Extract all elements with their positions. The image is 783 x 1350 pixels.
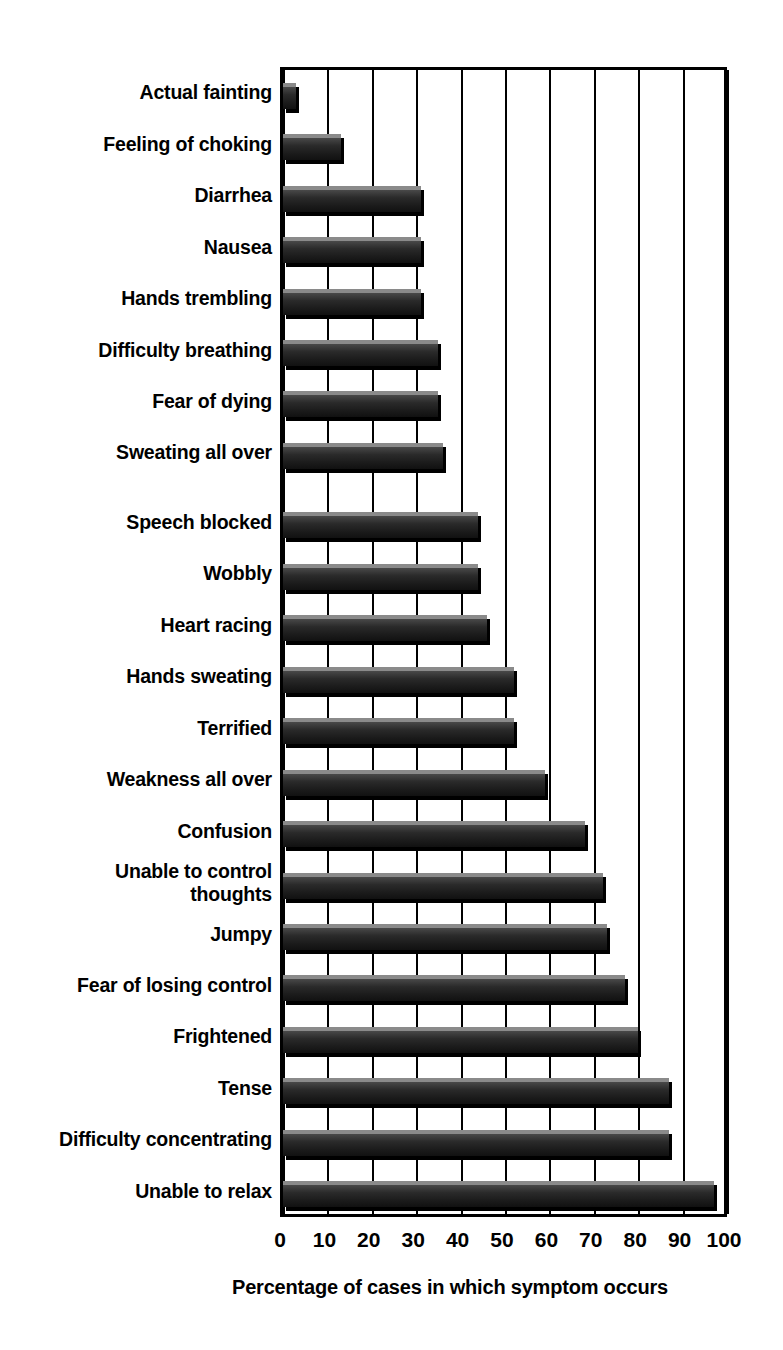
- bar-difficulty-concentrating: [283, 1130, 669, 1156]
- x-tick-label-10: 10: [313, 1228, 336, 1252]
- x-axis-title: Percentage of cases in which symptom occ…: [130, 1276, 770, 1299]
- bar-row: [283, 289, 724, 315]
- bar-row: [283, 770, 724, 796]
- bar-row: [283, 718, 724, 744]
- bar-row: [283, 975, 724, 1001]
- gridline-100: [727, 70, 729, 1214]
- bar-feeling-of-choking: [283, 134, 341, 160]
- bar-heart-racing: [283, 615, 487, 641]
- x-tick-label-50: 50: [490, 1228, 513, 1252]
- category-label-jumpy: Jumpy: [40, 923, 272, 946]
- x-tick-label-40: 40: [446, 1228, 469, 1252]
- bar-row: [283, 1027, 724, 1053]
- category-label-heart-racing: Heart racing: [40, 614, 272, 637]
- bar-speech-blocked: [283, 512, 478, 538]
- category-label-difficulty-concentrating: Difficulty concentrating: [40, 1128, 272, 1151]
- bar-row: [283, 1181, 724, 1207]
- bar-confusion: [283, 821, 585, 847]
- bar-row: [283, 615, 724, 641]
- bar-row: [283, 83, 724, 109]
- x-tick-label-60: 60: [535, 1228, 558, 1252]
- bar-hands-sweating: [283, 667, 514, 693]
- bar-tense: [283, 1078, 669, 1104]
- bar-highlight: [283, 667, 514, 671]
- category-label-actual-fainting: Actual fainting: [40, 81, 272, 104]
- bar-highlight: [283, 821, 585, 825]
- category-label-weakness-all-over: Weakness all over: [40, 768, 272, 791]
- x-tick-label-0: 0: [274, 1228, 286, 1252]
- bar-difficulty-breathing: [283, 340, 438, 366]
- x-axis-tick-labels: 0102030405060708090100: [280, 1228, 727, 1258]
- category-label-fear-of-losing-control: Fear of losing control: [40, 974, 272, 997]
- bar-row: [283, 1130, 724, 1156]
- bar-jumpy: [283, 924, 607, 950]
- category-label-diarrhea: Diarrhea: [40, 184, 272, 207]
- category-label-speech-blocked: Speech blocked: [40, 511, 272, 534]
- bar-highlight: [283, 289, 421, 293]
- bar-row: [283, 821, 724, 847]
- bar-highlight: [283, 615, 487, 619]
- category-label-wobbly: Wobbly: [40, 562, 272, 585]
- bar-highlight: [283, 1078, 669, 1082]
- x-tick-label-70: 70: [579, 1228, 602, 1252]
- category-label-tense: Tense: [40, 1077, 272, 1100]
- bar-row: [283, 873, 724, 899]
- category-label-unable-to-control-thoughts: Unable to control thoughts: [40, 860, 272, 906]
- bar-row: [283, 1078, 724, 1104]
- bar-highlight: [283, 186, 421, 190]
- bar-sweating-all-over: [283, 443, 443, 469]
- bars-layer: [283, 70, 724, 1214]
- bar-actual-fainting: [283, 83, 296, 109]
- bar-row: [283, 443, 724, 469]
- bar-highlight: [283, 340, 438, 344]
- category-label-confusion: Confusion: [40, 820, 272, 843]
- bar-highlight: [283, 924, 607, 928]
- category-label-list: Actual faintingFeeling of chokingDiarrhe…: [40, 67, 272, 1217]
- bar-highlight: [283, 512, 478, 516]
- bar-highlight: [283, 237, 421, 241]
- plot-area: [280, 67, 727, 1217]
- bar-highlight: [283, 718, 514, 722]
- bar-highlight: [283, 1130, 669, 1134]
- x-tick-label-100: 100: [706, 1228, 741, 1252]
- category-label-terrified: Terrified: [40, 717, 272, 740]
- bar-row: [283, 186, 724, 212]
- bar-highlight: [283, 443, 443, 447]
- bar-highlight: [283, 134, 341, 138]
- bar-row: [283, 924, 724, 950]
- bar-row: [283, 134, 724, 160]
- bar-highlight: [283, 1181, 714, 1185]
- bar-nausea: [283, 237, 421, 263]
- bar-unable-to-relax: [283, 1181, 714, 1207]
- category-label-frightened: Frightened: [40, 1025, 272, 1048]
- bar-frightened: [283, 1027, 638, 1053]
- bar-highlight: [283, 770, 545, 774]
- category-label-nausea: Nausea: [40, 236, 272, 259]
- bar-highlight: [283, 975, 625, 979]
- bar-row: [283, 564, 724, 590]
- category-label-feeling-of-choking: Feeling of choking: [40, 133, 272, 156]
- bar-highlight: [283, 873, 603, 877]
- bar-fear-of-losing-control: [283, 975, 625, 1001]
- x-tick-label-80: 80: [624, 1228, 647, 1252]
- bar-row: [283, 391, 724, 417]
- bar-highlight: [283, 564, 478, 568]
- category-label-hands-trembling: Hands trembling: [40, 287, 272, 310]
- category-label-unable-to-relax: Unable to relax: [40, 1180, 272, 1203]
- bar-terrified: [283, 718, 514, 744]
- bar-row: [283, 667, 724, 693]
- bar-highlight: [283, 83, 296, 87]
- x-tick-label-30: 30: [402, 1228, 425, 1252]
- bar-weakness-all-over: [283, 770, 545, 796]
- bar-wobbly: [283, 564, 478, 590]
- category-label-fear-of-dying: Fear of dying: [40, 390, 272, 413]
- bar-row: [283, 512, 724, 538]
- bar-unable-to-control-thoughts: [283, 873, 603, 899]
- bar-fear-of-dying: [283, 391, 438, 417]
- bar-row: [283, 237, 724, 263]
- bar-highlight: [283, 391, 438, 395]
- category-label-sweating-all-over: Sweating all over: [40, 441, 272, 464]
- bar-diarrhea: [283, 186, 421, 212]
- category-label-difficulty-breathing: Difficulty breathing: [40, 339, 272, 362]
- bar-highlight: [283, 1027, 638, 1031]
